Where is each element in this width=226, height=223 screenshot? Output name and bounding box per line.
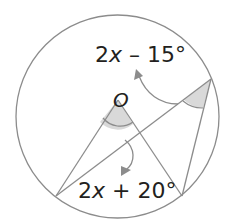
central-rest: + 20°	[105, 178, 176, 203]
inscribed-angle-label: 2x – 15°	[95, 44, 186, 66]
inscribed-angle-arrow	[139, 76, 178, 104]
inscribed-rest: – 15°	[122, 42, 186, 67]
inscribed-var: x	[109, 42, 122, 67]
central-coef: 2	[78, 178, 92, 203]
central-var: x	[92, 178, 105, 203]
inscribed-arrowhead-icon	[134, 69, 143, 80]
central-angle-label: 2x + 20°	[78, 180, 176, 202]
inscribed-coef: 2	[95, 42, 109, 67]
central-angle-arrow	[125, 140, 133, 170]
center-label: O	[113, 90, 129, 110]
circle-diagram: 2x – 15° O 2x + 20°	[0, 0, 226, 223]
